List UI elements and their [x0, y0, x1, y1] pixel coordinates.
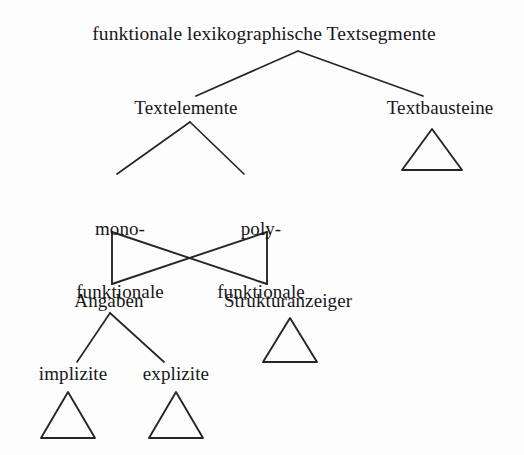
- edge-textelemente-to-mono: [117, 122, 190, 174]
- node-monofunktionale-line1: mono-: [76, 218, 164, 239]
- implizite-triangle: [41, 392, 95, 438]
- textbausteine-triangle: [402, 129, 462, 170]
- explizite-triangle: [149, 392, 203, 438]
- node-explizite: explizite: [143, 364, 209, 385]
- node-polyfunktionale-line1: poly-: [217, 218, 305, 239]
- node-polyfunktionale: poly- funktionale: [217, 175, 305, 345]
- node-strukturanzeiger: Strukturanzeiger: [224, 291, 352, 312]
- node-angaben: Angaben: [74, 291, 143, 312]
- edge-root-to-textbausteine: [298, 51, 423, 96]
- node-monofunktionale: mono- funktionale: [76, 175, 164, 345]
- tree-diagram-canvas: funktionale lexikographische Textsegment…: [0, 0, 524, 455]
- node-textelemente: Textelemente: [134, 98, 237, 119]
- edge-textelemente-to-poly: [190, 122, 244, 174]
- node-textbausteine: Textbausteine: [387, 98, 494, 119]
- node-implizite: implizite: [39, 364, 107, 385]
- node-root: funktionale lexikographische Textsegment…: [92, 23, 436, 44]
- edge-root-to-textelemente: [196, 51, 298, 96]
